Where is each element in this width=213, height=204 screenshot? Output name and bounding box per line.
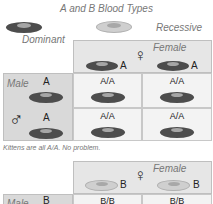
female-allele-1: A [120,60,127,71]
punnett-cell: A/A [73,73,142,108]
recessive-disc-icon [96,21,132,33]
male-symbol-icon: ♂ [9,110,23,129]
offspring-disc-icon [91,127,125,138]
punnett-cell: B/B [142,194,212,204]
dominant-disc-icon [6,22,42,33]
female-allele-disc-icon [86,61,118,71]
result-note: Kittens are all A/A. No problem. [3,144,100,151]
female-allele-1: B [120,179,127,190]
female-allele-2: B [193,179,200,190]
male-allele-disc-icon [29,128,63,139]
diagram-title: A and B Blood Types [0,3,213,14]
punnett-cell: A/A [142,108,212,141]
male-label-1: Male [7,78,29,89]
female-allele-2: A [191,60,198,71]
recessive-label: Recessive [156,22,202,33]
male-allele-1: B [43,195,50,204]
male-allele-2: A [43,112,50,123]
female-label-2: Female [153,163,186,174]
offspring-disc-icon [91,92,125,103]
punnett-cell: B/B [73,194,142,204]
female-allele-disc-icon [157,61,189,71]
female-symbol-icon: ♀ [134,167,147,184]
dominant-label: Dominant [22,34,65,45]
offspring-disc-icon [160,127,194,138]
female-symbol-icon: ♀ [134,47,147,64]
male-allele-1: A [43,76,50,87]
male-allele-disc-icon [29,92,63,103]
female-label-1: Female [153,42,186,53]
female-allele-disc-icon [85,180,118,191]
male-label-2: Male [7,198,29,204]
punnett-cell: A/A [142,73,212,108]
female-allele-disc-icon [157,180,190,191]
punnett-cell: A/A [73,108,142,141]
offspring-disc-icon [160,92,194,103]
